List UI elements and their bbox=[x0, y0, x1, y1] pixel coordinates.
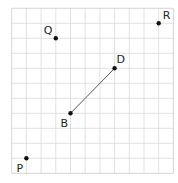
point-dot-icon bbox=[112, 66, 116, 70]
point-label: B bbox=[61, 117, 69, 130]
points: QRDBP bbox=[16, 9, 170, 175]
segment-bd bbox=[71, 68, 115, 113]
line-segments bbox=[71, 68, 115, 113]
point-label: P bbox=[16, 162, 23, 175]
coordinate-grid-diagram: QRDBP bbox=[0, 0, 178, 183]
point-dot-icon bbox=[54, 36, 58, 40]
point-label: R bbox=[163, 9, 171, 22]
point-dot-icon bbox=[157, 21, 161, 25]
point-dot-icon bbox=[68, 111, 72, 115]
point-label: Q bbox=[44, 24, 53, 37]
point-dot-icon bbox=[24, 156, 28, 160]
point-label: D bbox=[117, 53, 125, 66]
